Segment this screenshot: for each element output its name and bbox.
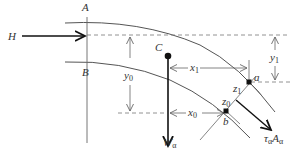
area-symbol: A <box>272 132 279 144</box>
centroid-point <box>165 53 172 60</box>
upper-boundary-curve <box>65 22 275 112</box>
label-z0: z0 <box>222 96 230 109</box>
label-x0: x0 <box>188 107 197 120</box>
label-point-a: a <box>254 72 260 83</box>
label-y0: y0 <box>124 70 133 83</box>
label-x1: x1 <box>190 62 199 75</box>
point-a <box>247 80 252 85</box>
area-subscript: α <box>279 137 283 146</box>
w-symbol: W <box>163 136 172 148</box>
label-b-section: B <box>82 67 89 78</box>
label-a-section: A <box>82 2 89 13</box>
label-y1: y1 <box>270 52 279 65</box>
label-centroid: C <box>155 42 162 53</box>
flow-section-diagram: A B H C y0 x1 x0 y1 z1 z0 a b Wα ταAα <box>0 0 299 156</box>
w-subscript: α <box>172 141 176 150</box>
label-point-b: b <box>223 116 229 127</box>
x1-subscript: 1 <box>195 66 199 75</box>
label-z1: z1 <box>233 83 241 96</box>
point-b <box>224 109 229 114</box>
label-weight: Wα <box>163 137 176 150</box>
y1-subscript: 1 <box>275 56 279 65</box>
label-h-force: H <box>8 31 16 42</box>
x0-subscript: 0 <box>193 111 197 120</box>
z0-subscript: 0 <box>226 100 230 109</box>
shear-force-arrow <box>236 100 271 130</box>
z1-subscript: 1 <box>237 87 241 96</box>
label-shear-force: ταAα <box>264 133 283 146</box>
y0-subscript: 0 <box>129 74 133 83</box>
